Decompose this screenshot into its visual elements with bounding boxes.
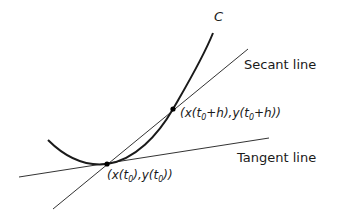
secant-line — [53, 49, 248, 209]
point-t0h-label-suffix: +h)) — [254, 106, 281, 120]
point-t0h-label-mid: +h),y(t — [206, 106, 249, 120]
point-t0-plus-h-label: (x(t0+h),y(t0+h)) — [180, 107, 281, 122]
point-t0 — [104, 161, 109, 166]
point-t0-label-prefix: (x(t — [107, 168, 128, 182]
curve-label: C — [214, 10, 223, 23]
curve-c — [48, 33, 213, 164]
diagram-canvas: C Secant line Tangent line (x(t0),y(t0))… — [0, 0, 338, 219]
tangent-line-label: Tangent line — [237, 151, 316, 164]
point-t0h-label-prefix: (x(t — [180, 106, 201, 120]
point-t0-label: (x(t0),y(t0)) — [107, 169, 173, 184]
point-t0-label-mid: ),y(t — [133, 168, 158, 182]
point-t0-plus-h — [170, 106, 175, 111]
secant-line-label: Secant line — [244, 58, 316, 71]
diagram-svg — [0, 0, 338, 219]
point-t0-label-suffix: )) — [163, 168, 172, 182]
